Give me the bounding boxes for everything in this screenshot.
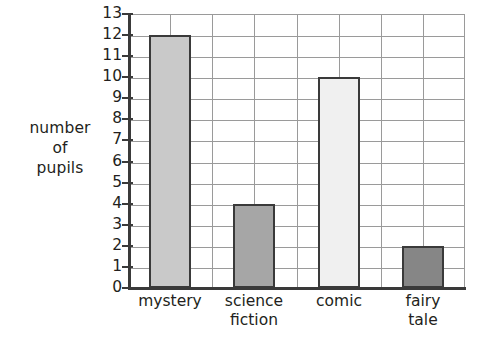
y-axis-tick-mark bbox=[122, 203, 133, 205]
x-axis-label-line: fairy bbox=[363, 292, 483, 311]
y-axis-tick-mark bbox=[122, 13, 133, 15]
gridline-vertical bbox=[297, 15, 298, 289]
y-axis-tick-label: 3 bbox=[96, 217, 122, 233]
x-axis-label-line: fiction bbox=[194, 311, 314, 330]
y-axis-tick-label: 13 bbox=[96, 6, 122, 22]
y-axis-tick-label: 6 bbox=[96, 154, 122, 170]
y-axis-tick-label: 7 bbox=[96, 132, 122, 148]
x-axis-label-fairy-tale: fairytale bbox=[363, 292, 483, 330]
y-axis-tick-mark bbox=[122, 139, 133, 141]
bar-mystery bbox=[149, 35, 191, 288]
y-axis-tick-mark bbox=[122, 245, 133, 247]
y-axis-tick-label: 9 bbox=[96, 90, 122, 106]
y-axis-tick-mark bbox=[122, 182, 133, 184]
y-axis-tick-mark bbox=[122, 55, 133, 57]
y-axis-tick-label: 11 bbox=[96, 48, 122, 64]
bar-chart: number of pupils 012345678910111213 myst… bbox=[0, 0, 494, 344]
y-axis-tick-mark bbox=[122, 266, 133, 268]
y-axis-tick-mark bbox=[122, 34, 133, 36]
y-axis-tick-label: 8 bbox=[96, 111, 122, 127]
y-axis-tick-label: 2 bbox=[96, 238, 122, 254]
y-axis-tick-label: 5 bbox=[96, 175, 122, 191]
y-axis-tick-label: 4 bbox=[96, 196, 122, 212]
bar-fairy-tale bbox=[402, 246, 444, 288]
y-axis-tick-mark bbox=[122, 287, 133, 289]
x-axis-label-line: tale bbox=[363, 311, 483, 330]
y-axis-tick-label: 1 bbox=[96, 259, 122, 275]
y-axis-tick-label: 12 bbox=[96, 27, 122, 43]
gridline-vertical bbox=[381, 15, 382, 289]
y-axis-tick-mark bbox=[122, 97, 133, 99]
y-axis-tick-mark bbox=[122, 76, 133, 78]
y-axis-tick-mark bbox=[122, 224, 133, 226]
gridline-vertical bbox=[212, 15, 213, 289]
x-axis-line bbox=[128, 287, 466, 290]
bar-comic bbox=[318, 77, 360, 288]
y-axis-tick-mark bbox=[122, 118, 133, 120]
bar-science-fiction bbox=[233, 204, 275, 288]
plot-area bbox=[128, 14, 465, 288]
y-axis-tick-label: 10 bbox=[96, 69, 122, 85]
y-axis-tick-mark bbox=[122, 161, 133, 163]
